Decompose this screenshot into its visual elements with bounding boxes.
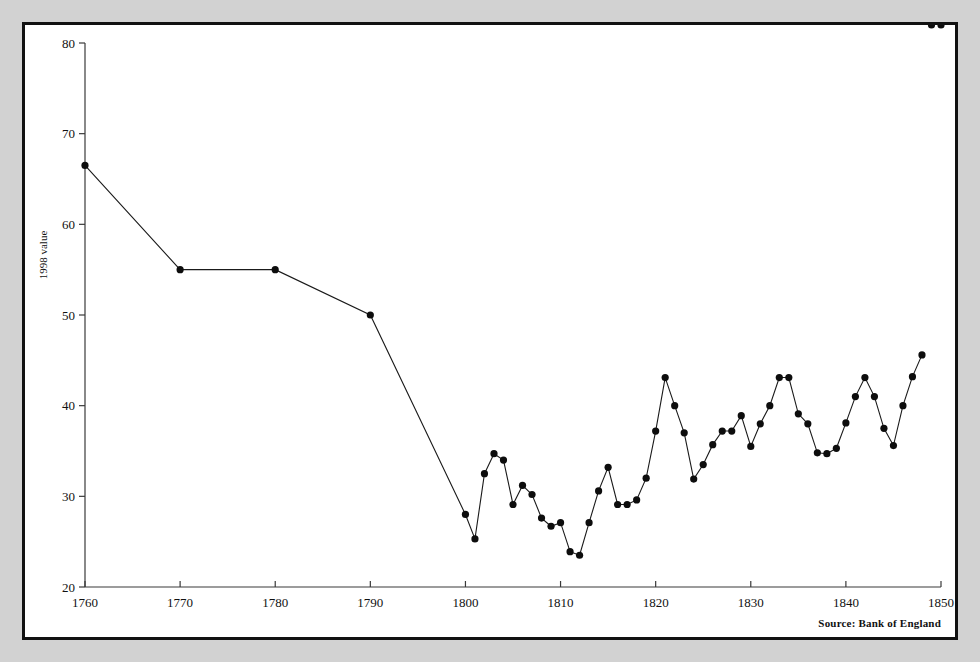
data-point [557,519,564,526]
data-point [833,445,840,452]
x-tick-label: 1840 [833,595,859,610]
x-tick-label: 1830 [738,595,764,610]
data-point [509,501,516,508]
y-tick-label: 50 [62,308,75,323]
data-point [566,548,573,555]
data-point [519,482,526,489]
data-point [899,402,906,409]
data-point [671,402,678,409]
data-point [462,511,469,518]
x-tick-label: 1810 [548,595,574,610]
series-line [85,165,922,555]
data-point [690,476,697,483]
data-point [852,393,859,400]
data-point [795,410,802,417]
data-point [681,429,688,436]
data-point [471,535,478,542]
data-point [585,519,592,526]
data-point [624,501,631,508]
data-point [890,442,897,449]
x-tick-label: 1760 [72,595,98,610]
figure-frame: 2030405060708017601770178017901800181018… [22,22,958,640]
y-axis-title: 1998 value [37,231,49,280]
x-tick-label: 1770 [167,595,193,610]
y-tick-label: 70 [62,126,75,141]
data-point [757,420,764,427]
data-point [272,266,279,273]
x-tick-label: 1780 [262,595,288,610]
data-point [766,402,773,409]
x-tick-label: 1790 [357,595,383,610]
data-point [709,441,716,448]
chart-page: 2030405060708017601770178017901800181018… [0,0,980,662]
y-tick-label: 20 [62,580,75,595]
x-tick-label: 1850 [928,595,954,610]
data-point [576,552,583,559]
x-tick-label: 1800 [452,595,478,610]
data-point [605,464,612,471]
y-tick-label: 40 [62,398,75,413]
data-point [481,470,488,477]
data-point [633,496,640,503]
data-point [538,514,545,521]
y-tick-label: 60 [62,217,75,232]
data-point [871,393,878,400]
data-point [490,450,497,457]
data-point [747,443,754,450]
data-point [861,374,868,381]
data-point [177,266,184,273]
data-point [909,373,916,380]
data-point [814,449,821,456]
data-point [528,491,535,498]
data-point [776,374,783,381]
data-point [500,456,507,463]
y-tick-label: 30 [62,489,75,504]
data-point [804,420,811,427]
data-point [842,419,849,426]
data-point [700,461,707,468]
data-point [738,412,745,419]
data-point [823,450,830,457]
data-point [614,501,621,508]
data-point [81,162,88,169]
data-point [662,374,669,381]
x-tick-label: 1820 [643,595,669,610]
data-point [880,425,887,432]
data-point [367,311,374,318]
data-point [643,475,650,482]
data-point [595,487,602,494]
line-chart: 2030405060708017601770178017901800181018… [25,25,961,643]
y-tick-label: 80 [62,36,75,51]
data-point [918,351,925,358]
data-point [652,427,659,434]
data-point [719,427,726,434]
source-note: Source: Bank of England [818,617,941,629]
data-point [928,25,935,29]
data-point [937,25,944,29]
data-point [728,427,735,434]
data-point [547,523,554,530]
data-point [785,374,792,381]
